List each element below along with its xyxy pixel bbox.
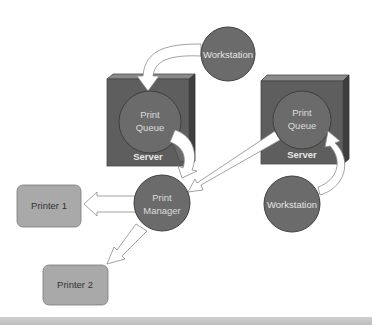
server-right-label: Server <box>287 149 317 160</box>
print-queue-left-label-2: Queue <box>136 122 165 133</box>
printer-1-label: Printer 1 <box>31 200 67 211</box>
print-manager-label-1: Print <box>152 192 172 203</box>
arrow-manager-to-printer-1 <box>84 192 138 216</box>
footer-bar <box>0 317 372 325</box>
printer-2-label: Printer 2 <box>57 279 93 290</box>
server-left-label: Server <box>133 151 163 162</box>
print-architecture-diagram: Workstation Print Queue Server Print Que… <box>0 0 372 325</box>
workstation-top-label: Workstation <box>203 49 253 60</box>
print-manager <box>134 175 190 231</box>
print-manager-label-2: Manager <box>143 205 181 216</box>
print-queue-right-label-1: Print <box>292 107 312 118</box>
arrow-manager-to-printer-2 <box>107 224 147 264</box>
print-queue-right-label-2: Queue <box>288 120 317 131</box>
print-queue-left-label-1: Print <box>140 109 160 120</box>
workstation-right-label: Workstation <box>267 199 317 210</box>
